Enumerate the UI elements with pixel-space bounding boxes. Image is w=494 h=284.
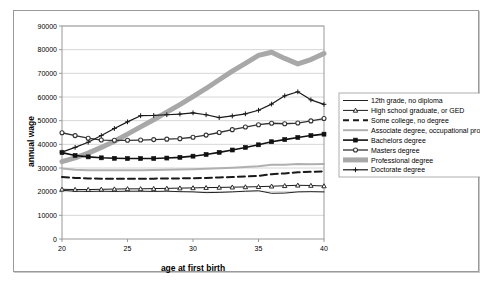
legend-label: Some college, no degree — [371, 117, 449, 125]
svg-text:25: 25 — [124, 245, 132, 252]
svg-text:40: 40 — [320, 245, 328, 252]
legend-label: 12th grade, no diploma — [371, 97, 443, 105]
svg-text:20000: 20000 — [38, 188, 58, 195]
svg-text:90000: 90000 — [38, 23, 58, 30]
svg-text:0: 0 — [53, 236, 57, 243]
legend-label: Doctorate degree — [371, 166, 425, 174]
svg-text:10000: 10000 — [38, 212, 58, 219]
legend-label: Professional degree — [371, 157, 433, 165]
legend-label: Masters degree — [371, 147, 420, 155]
legend-label: High school graduate, or GED — [371, 107, 464, 115]
y-axis-ticks: 0100002000030000400005000060000700008000… — [38, 23, 62, 243]
series-line — [62, 52, 324, 161]
line-chart-plot: 0100002000030000400005000060000700008000… — [14, 11, 480, 273]
svg-text:60000: 60000 — [38, 94, 58, 101]
svg-text:70000: 70000 — [38, 70, 58, 77]
series-line — [62, 164, 324, 170]
svg-text:30: 30 — [189, 245, 197, 252]
svg-text:80000: 80000 — [38, 46, 58, 53]
chart-frame: annual wage age at first birth 010000200… — [13, 10, 479, 272]
svg-text:50000: 50000 — [38, 117, 58, 124]
svg-text:30000: 30000 — [38, 165, 58, 172]
legend-label: Associate degree, occupational program — [371, 127, 480, 135]
series-line — [62, 171, 324, 178]
x-axis-ticks: 2025303540 — [58, 239, 328, 252]
legend-label: Bachelors degree — [371, 137, 426, 145]
svg-text:40000: 40000 — [38, 141, 58, 148]
series-line — [60, 183, 326, 191]
chart-legend: 12th grade, no diplomaHigh school gradua… — [339, 93, 480, 177]
svg-text:35: 35 — [255, 245, 263, 252]
svg-text:20: 20 — [58, 245, 66, 252]
